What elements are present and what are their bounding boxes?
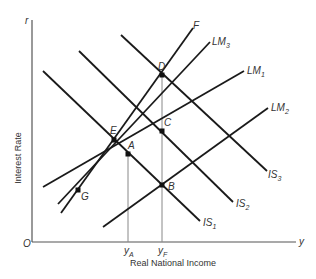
- label-point-c: C: [164, 117, 172, 128]
- label-point-a: A: [127, 140, 135, 151]
- point-a: [126, 152, 131, 157]
- label-point-b: B: [168, 181, 175, 192]
- label-f: F: [193, 20, 200, 31]
- lm1-curve: [43, 71, 244, 187]
- y-axis-symbol: r: [25, 15, 29, 26]
- lm3-curve: [58, 42, 210, 204]
- y-axis-title: Interest Rate: [13, 132, 23, 184]
- is-lm-diagram: D C B A E G F LM3 LM1 LM2 IS3 IS2 IS1 r …: [0, 0, 316, 279]
- label-lm3: LM3: [212, 36, 230, 49]
- point-d: [160, 73, 165, 78]
- point-c: [160, 129, 165, 134]
- origin-label: O: [23, 238, 31, 249]
- label-point-e: E: [110, 125, 117, 136]
- point-g: [76, 188, 81, 193]
- label-is1: IS1: [203, 217, 216, 230]
- label-is3: IS3: [268, 169, 281, 182]
- label-point-g: G: [81, 191, 89, 202]
- tick-ya: yA: [123, 245, 134, 258]
- label-lm1: LM1: [247, 65, 265, 78]
- label-is2: IS2: [236, 198, 249, 211]
- is3-curve: [121, 35, 267, 171]
- label-point-d: D: [158, 61, 165, 72]
- point-e: [112, 138, 117, 143]
- x-axis-title: Real National Income: [130, 258, 216, 268]
- x-axis-symbol: y: [298, 236, 305, 247]
- tick-yf: yF: [157, 245, 168, 258]
- label-lm2: LM2: [271, 102, 289, 115]
- point-b: [160, 183, 165, 188]
